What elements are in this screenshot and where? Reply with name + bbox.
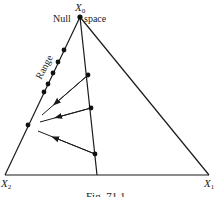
arrow-2-mid bbox=[58, 108, 91, 117]
range-dot bbox=[46, 82, 51, 87]
range-edge bbox=[5, 17, 80, 175]
label-space: space bbox=[84, 13, 107, 24]
label-null: Null bbox=[53, 13, 71, 24]
range-dot bbox=[26, 123, 31, 128]
null-space-dot bbox=[86, 73, 91, 78]
range-null-space-diagram: X0 Null space Range X2 X1 Fig. 71.1 bbox=[0, 0, 218, 197]
null-space-dot bbox=[93, 152, 98, 157]
arrow-1-mid bbox=[56, 75, 88, 103]
figure-caption: Fig. 71.1 bbox=[86, 190, 125, 197]
label-x2: X2 bbox=[0, 177, 12, 191]
right-edge bbox=[80, 17, 209, 175]
arrow-3-mid bbox=[55, 138, 95, 154]
vertex-x0-dot bbox=[77, 14, 82, 19]
range-dot bbox=[56, 60, 61, 65]
range-dot bbox=[42, 90, 47, 95]
range-dot bbox=[62, 48, 67, 53]
null-space-dot bbox=[89, 106, 94, 111]
range-dot bbox=[51, 71, 56, 76]
label-x1: X1 bbox=[203, 177, 215, 191]
triangle bbox=[5, 17, 209, 175]
